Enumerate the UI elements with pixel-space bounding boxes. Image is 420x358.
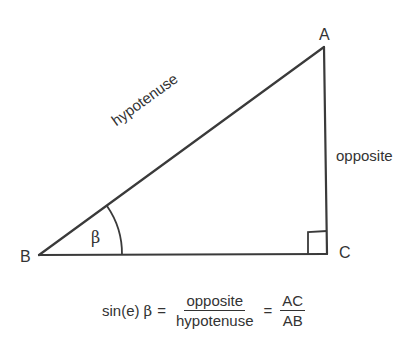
opposite-line: [324, 47, 327, 254]
formula-equals-2: =: [264, 302, 273, 319]
sine-formula: sin(e) β = opposite hypotenuse = AC AB: [102, 292, 308, 329]
fraction-denominator-hypotenuse: hypotenuse: [174, 311, 256, 329]
formula-beta: β: [144, 302, 153, 320]
right-angle-marker: [308, 231, 327, 254]
vertex-a-label: A: [319, 27, 330, 43]
angle-beta-label: β: [91, 230, 100, 246]
formula-fraction-words: opposite hypotenuse: [174, 292, 256, 329]
angle-beta-arc: [107, 206, 122, 255]
fraction-numerator-ac: AC: [280, 292, 305, 311]
formula-function: sin(e): [102, 302, 140, 319]
adjacent-line: [39, 254, 327, 255]
opposite-label: opposite: [336, 148, 393, 163]
fraction-denominator-ab: AB: [281, 311, 305, 329]
fraction-numerator-opposite: opposite: [184, 292, 245, 311]
hypotenuse-line: [39, 47, 324, 255]
vertex-c-label: C: [339, 245, 351, 261]
vertex-b-label: B: [20, 249, 31, 265]
formula-fraction-sides: AC AB: [280, 292, 305, 329]
formula-equals-1: =: [157, 302, 166, 319]
